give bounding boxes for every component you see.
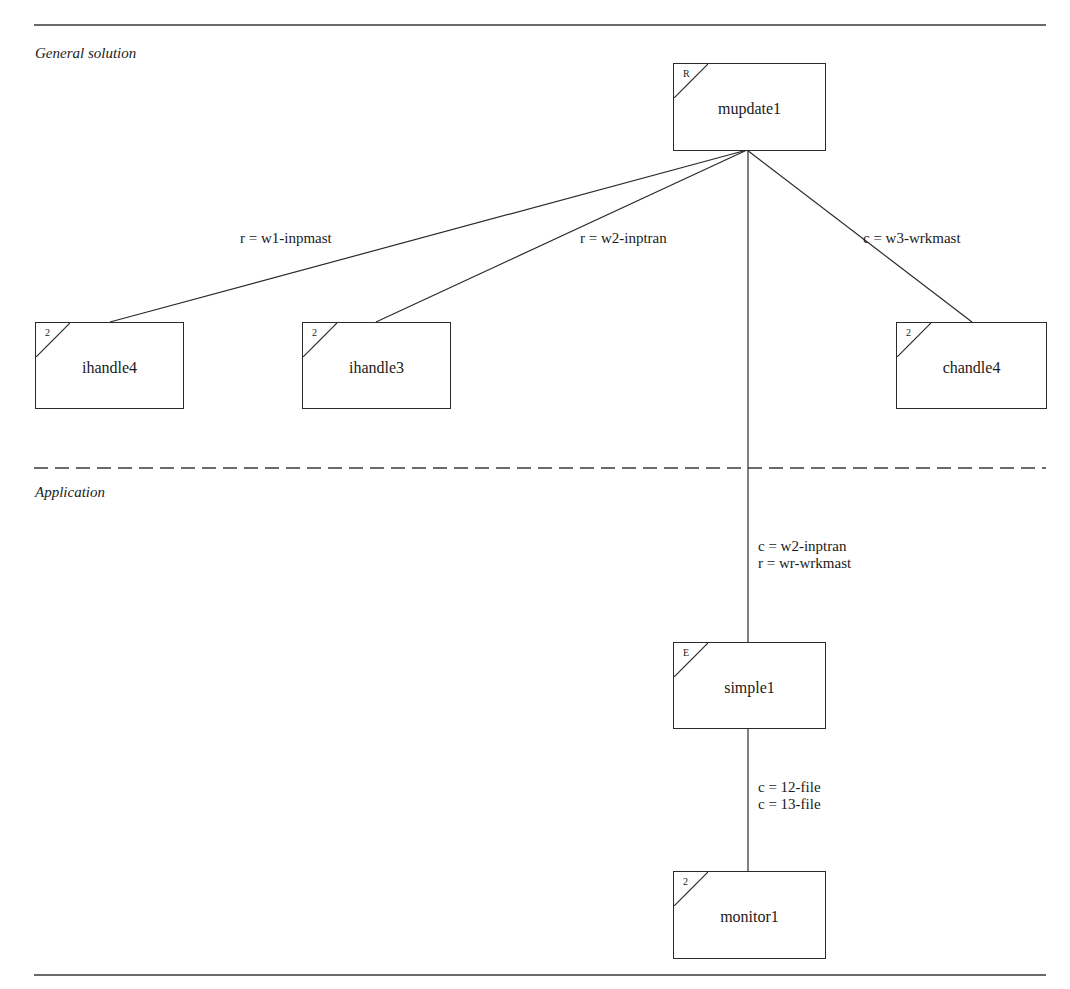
node-name: monitor1: [674, 908, 825, 926]
edge-mupdate1-ihandle3: [376, 150, 747, 322]
edge-label-line: c = w2-inptran: [758, 538, 851, 555]
corner-diagonal-icon: [897, 323, 931, 357]
edge-label-line: c = 12-file: [758, 779, 821, 796]
node-type-marker: R: [683, 68, 690, 79]
node-type-marker: 2: [683, 876, 688, 887]
node-mupdate1[interactable]: R mupdate1: [673, 63, 826, 151]
node-simple1[interactable]: E simple1: [673, 642, 826, 729]
edge-label-mupdate1-ihandle3: r = w2-inptran: [580, 230, 667, 247]
node-type-marker: E: [683, 647, 689, 658]
edge-label-simple1-monitor1: c = 12-file c = 13-file: [758, 779, 821, 813]
diagram-lines: [0, 0, 1070, 989]
corner-diagonal-icon: [36, 323, 70, 357]
node-name: chandle4: [897, 358, 1046, 376]
edge-label-mupdate1-simple1: c = w2-inptran r = wr-wrkmast: [758, 538, 851, 572]
corner-diagonal-icon: [303, 323, 337, 357]
edge-label-mupdate1-chandle4: c = w3-wrkmast: [863, 230, 961, 247]
section-label-application: Application: [35, 484, 105, 501]
node-monitor1[interactable]: 2 monitor1: [673, 871, 826, 959]
section-label-general-solution: General solution: [35, 45, 136, 62]
node-type-marker: 2: [312, 327, 317, 338]
node-name: mupdate1: [674, 100, 825, 118]
node-name: ihandle3: [303, 358, 450, 376]
edge-label-line: c = 13-file: [758, 796, 821, 813]
edge-label-mupdate1-ihandle4: r = w1-inpmast: [240, 230, 332, 247]
node-type-marker: 2: [45, 327, 50, 338]
corner-diagonal-icon: [674, 64, 708, 98]
node-name: simple1: [674, 678, 825, 696]
node-chandle4[interactable]: 2 chandle4: [896, 322, 1047, 409]
node-ihandle4[interactable]: 2 ihandle4: [35, 322, 184, 409]
corner-diagonal-icon: [674, 643, 708, 677]
corner-diagonal-icon: [674, 872, 708, 906]
edge-label-line: r = wr-wrkmast: [758, 555, 851, 572]
node-ihandle3[interactable]: 2 ihandle3: [302, 322, 451, 409]
node-type-marker: 2: [906, 327, 911, 338]
node-name: ihandle4: [36, 358, 183, 376]
